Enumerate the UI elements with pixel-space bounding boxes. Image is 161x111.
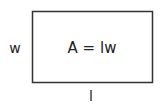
length-label: l [89,88,93,104]
width-label: w [9,40,20,56]
area-formula: A = lw [68,39,117,57]
area-diagram: w A = lw l [0,0,161,111]
